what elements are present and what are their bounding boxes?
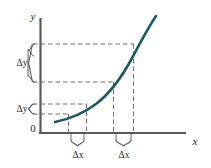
figure-container: y x 0 Δy Δy Δx Δx: [0, 0, 211, 168]
brace-tick-group: [71, 134, 131, 140]
origin-label: 0: [30, 122, 36, 134]
exponential-curve: [55, 16, 156, 122]
x-axis-label: x: [192, 135, 198, 147]
axes-group: [39, 18, 186, 133]
vertical-guides-group: [69, 44, 134, 133]
delta-y-upper-label: Δy: [17, 58, 28, 68]
delta-x-left-label: Δx: [73, 150, 84, 160]
delta-y-lower-label: Δy: [17, 104, 28, 114]
delta-x-right-label: Δx: [119, 150, 130, 160]
delta-y-lower-brace: [29, 104, 35, 114]
y-axis-label: y: [30, 10, 36, 22]
delta-x-left-brace: [71, 140, 84, 146]
delta-x-right-brace: [116, 140, 131, 146]
exponential-growth-figure: y x 0 Δy Δy Δx Δx: [0, 0, 211, 168]
delta-y-upper-brace: [28, 44, 34, 82]
